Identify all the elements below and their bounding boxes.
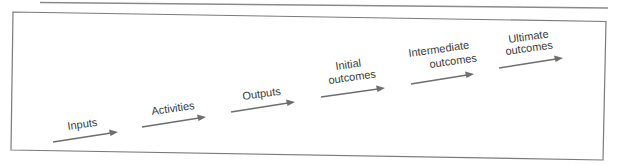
stage-activities: Activities	[142, 99, 206, 127]
stage-label: Outputs	[242, 85, 282, 102]
logic-model-diagram: Inputs Activities Outputs Initial	[0, 0, 618, 165]
arrow-right-icon	[231, 100, 295, 113]
stage-label: outcomes	[328, 67, 377, 86]
stage-label: Inputs	[67, 116, 99, 132]
stage-label-line: outcomes	[328, 67, 377, 86]
stage-intermediate-outcomes: Intermediate outcomes	[408, 39, 478, 84]
arrow-right-icon	[411, 72, 474, 85]
stage-ultimate-outcomes: Ultimate outcomes	[499, 27, 563, 68]
arrow-right-icon	[321, 86, 385, 98]
stage-label-line: Activities	[151, 99, 196, 117]
stage-inputs: Inputs	[53, 116, 118, 142]
stage-initial-outcomes: Initial outcomes	[321, 57, 385, 97]
stage-label: Activities	[151, 99, 196, 117]
stage-outputs: Outputs	[231, 85, 295, 112]
top-rule-line	[40, 3, 608, 9]
arrow-right-icon	[53, 130, 118, 143]
stage-label-line: Outputs	[242, 85, 282, 102]
stage-label-line: Inputs	[67, 116, 99, 132]
arrow-right-icon	[499, 56, 563, 69]
